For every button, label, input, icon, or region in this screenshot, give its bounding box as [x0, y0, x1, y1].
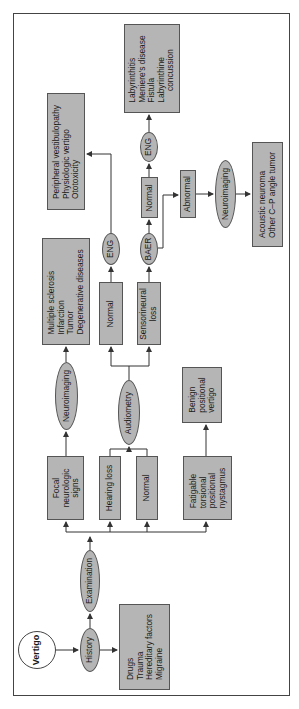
- node-label: BAER: [144, 238, 154, 261]
- box-history-factors: Drugs Trauma Hereditary factors Migraine: [119, 604, 170, 690]
- box-benign-positional-vertigo: Benign positional vertigo: [182, 367, 222, 423]
- node-label: Multiple sclerosis Infarction Tumor Dege…: [47, 249, 85, 334]
- box-peripheral-diagnoses: Peripheral vestibulopathy Physiologic ve…: [47, 93, 85, 210]
- box-normal-baer: Normal: [141, 177, 158, 218]
- box-normal-exam: Normal: [136, 456, 158, 520]
- node-label: Neuroimaging: [62, 370, 72, 422]
- decision-examination: Examination: [80, 550, 100, 612]
- node-label: ENG: [106, 240, 116, 258]
- node-label: Sensorineural loss: [139, 288, 158, 340]
- node-label: Normal: [142, 475, 152, 502]
- decision-baer: BAER: [140, 233, 158, 265]
- node-label: Focal neurologic signs: [51, 469, 80, 508]
- box-abnormal-baer: Abnormal: [180, 170, 196, 218]
- decision-history: History: [80, 628, 100, 672]
- node-label: Drugs Trauma Hereditary factors Migraine: [125, 614, 163, 680]
- node-label: Normal: [106, 300, 116, 327]
- box-labyrinth-diagnoses: Labyrinthitis Meniere's disease Fistula …: [124, 24, 180, 113]
- decision-neuroimaging-baer: Neuroimaging: [215, 160, 236, 228]
- node-label: ENG: [144, 138, 154, 156]
- box-acoustic-diagnoses: Acoustic neuroma Other C–P angle tumor: [252, 142, 283, 247]
- box-normal-audiometry: Normal: [99, 282, 123, 345]
- box-hearing-loss: Hearing loss: [99, 456, 121, 520]
- decision-eng-2: ENG: [140, 132, 158, 162]
- node-label: Vertigo: [32, 635, 42, 666]
- node-label: Peripheral vestibulopathy Physiologic ve…: [52, 104, 81, 198]
- node-label: Audiometry: [124, 391, 134, 433]
- node-label: History: [85, 637, 95, 663]
- decision-neuroimaging-focal: Neuroimaging: [55, 362, 78, 430]
- node-label: Labyrinthitis Meniere's disease Fistula …: [128, 35, 176, 102]
- decision-eng-1: ENG: [102, 233, 120, 265]
- node-label: Neuroimaging: [221, 168, 231, 220]
- decision-audiometry: Audiometry: [118, 380, 140, 445]
- box-fatigable-nystagmus: Fatigable torsional positional nystagmus: [183, 456, 232, 520]
- node-label: Fatigable torsional positional nystagmus: [188, 468, 226, 509]
- node-label: Examination: [85, 558, 95, 604]
- box-central-diagnoses: Multiple sclerosis Infarction Tumor Dege…: [42, 238, 90, 345]
- node-label: Hearing loss: [105, 465, 115, 512]
- start-node-vertigo: Vertigo: [18, 631, 56, 669]
- node-label: Acoustic neuroma Other C–P angle tumor: [258, 152, 277, 238]
- node-label: Benign positional vertigo: [188, 377, 217, 412]
- box-focal-neurologic-signs: Focal neurologic signs: [47, 456, 84, 520]
- node-label: Normal: [145, 184, 155, 211]
- node-label: Abnormal: [183, 176, 193, 212]
- box-sensorineural-loss: Sensorineural loss: [137, 282, 161, 345]
